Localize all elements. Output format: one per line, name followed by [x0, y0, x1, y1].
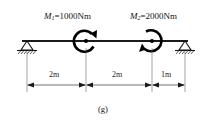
dimension-label-2: 2m [112, 71, 122, 79]
moment-m1-arrowhead [91, 30, 98, 39]
moment-m1-value: 1000Nm [60, 11, 92, 21]
moment-m1-label: M1=1000Nm [44, 12, 91, 21]
right-support-triangle [179, 41, 191, 50]
beam-diagram: M1=1000Nm M2=2000Nm 2m 2m 1m (g) [0, 0, 210, 128]
moment-m2-symbol-text: M [130, 11, 138, 21]
figure-caption: (g) [98, 105, 108, 114]
moment-m2-value: 2000Nm [146, 11, 178, 21]
dimension-label-1: 2m [49, 71, 59, 79]
moment-m2-center-dot [150, 39, 154, 43]
moment-m1-symbol-text: M [44, 11, 52, 21]
dimension-label-3: 1m [161, 71, 171, 79]
moment-m2-label: M2=2000Nm [130, 12, 177, 21]
left-support-triangle [21, 41, 33, 50]
moment-m1-center-dot [84, 39, 88, 43]
